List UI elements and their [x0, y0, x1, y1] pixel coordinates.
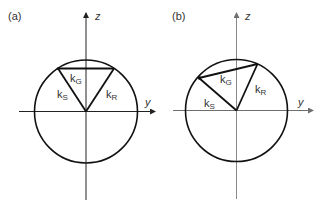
panel-a-label: (a): [8, 10, 21, 22]
panel-a: (a) z y kG kS kR: [8, 10, 155, 200]
vector-k-g-head: [198, 76, 202, 80]
z-axis-label: z: [244, 10, 251, 22]
vector-k-g-head: [57, 67, 60, 70]
panel-b: (b) z y kG kR kS: [172, 10, 313, 199]
y-axis-label: y: [144, 96, 152, 108]
z-axis-label: z: [94, 10, 101, 22]
y-axis-label: y: [297, 96, 305, 108]
label-k-r: kR: [255, 83, 267, 97]
panel-b-label: (b): [172, 10, 185, 22]
label-k-s: kS: [57, 88, 68, 102]
label-k-g: kG: [220, 73, 232, 87]
label-k-r: kR: [106, 88, 118, 102]
diagram-figure: (a) z y kG kS kR (b) z y kG kR: [0, 0, 321, 211]
label-k-g: kG: [70, 72, 82, 86]
label-k-s: kS: [204, 97, 215, 111]
vector-k-g: [199, 64, 258, 78]
